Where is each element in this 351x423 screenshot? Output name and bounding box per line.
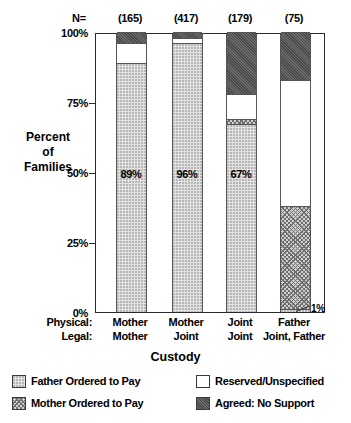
- bar-segment-mother[interactable]: [281, 206, 310, 310]
- y-axis-tick-label: 25%: [40, 237, 88, 249]
- x-axis-title: Custody: [0, 350, 351, 364]
- bar-segment-reserved[interactable]: [227, 94, 256, 119]
- y-axis-tick-label: 100%: [40, 27, 88, 39]
- bar-segment-agreed[interactable]: [117, 32, 146, 43]
- chart-figure: N= (165)(417)(179)(75) 0%25%50%75%100% P…: [0, 0, 351, 423]
- bar-segment-father[interactable]: [117, 63, 146, 312]
- bar-segment-agreed[interactable]: [173, 32, 202, 38]
- x-axis-category-label: Joint, Father: [249, 330, 339, 342]
- sample-size-value: (179): [210, 12, 270, 24]
- legend: Father Ordered to PayReserved/Unspecifie…: [0, 374, 351, 418]
- plot-area: 89%96%67%: [95, 33, 325, 313]
- bar-column[interactable]: 67%: [226, 34, 257, 312]
- legend-swatch-reserved: [196, 375, 210, 388]
- sample-size-header-label: N=: [72, 12, 86, 24]
- legend-label: Father Ordered to Pay: [31, 374, 140, 389]
- x-axis-row-key: Physical:: [4, 316, 92, 328]
- bar-segment-reserved[interactable]: [117, 43, 146, 63]
- bar-segment-agreed[interactable]: [227, 32, 256, 94]
- sample-size-value: (165): [100, 12, 160, 24]
- sample-size-value: (417): [156, 12, 216, 24]
- legend-label: Mother Ordered to Pay: [31, 396, 143, 411]
- bar-value-label: 89%: [116, 168, 147, 180]
- bar-segment-father[interactable]: [227, 124, 256, 312]
- y-axis-title: Percent of Families: [6, 130, 90, 175]
- y-axis-title-line-1: Percent: [6, 130, 90, 145]
- x-axis-row-key: Legal:: [4, 330, 92, 342]
- sample-size-value: (75): [264, 12, 324, 24]
- x-axis-category-label: Father: [249, 316, 339, 328]
- bar-segment-reserved[interactable]: [281, 80, 310, 206]
- bar-column[interactable]: [280, 34, 311, 312]
- bar-column[interactable]: 89%: [116, 34, 147, 312]
- legend-label: Reserved/Unspecified: [215, 374, 324, 389]
- bar-segment-mother[interactable]: [227, 119, 256, 125]
- y-axis-title-line-2: of: [6, 145, 90, 160]
- bar-segment-agreed[interactable]: [281, 32, 310, 80]
- bar-value-label: 67%: [226, 168, 257, 180]
- y-axis-title-line-3: Families: [6, 160, 90, 175]
- y-axis-tick-label: 75%: [40, 97, 88, 109]
- annotation-label-1-percent: 1%: [311, 303, 325, 314]
- legend-swatch-agreed: [196, 397, 210, 410]
- legend-swatch-mother: [12, 397, 26, 410]
- stacked-bar[interactable]: [280, 34, 311, 312]
- bar-value-label: 96%: [172, 168, 203, 180]
- bar-column[interactable]: 96%: [172, 34, 203, 312]
- bar-segment-reserved[interactable]: [173, 38, 202, 44]
- legend-label: Agreed: No Support: [215, 396, 314, 411]
- legend-swatch-father: [12, 375, 26, 388]
